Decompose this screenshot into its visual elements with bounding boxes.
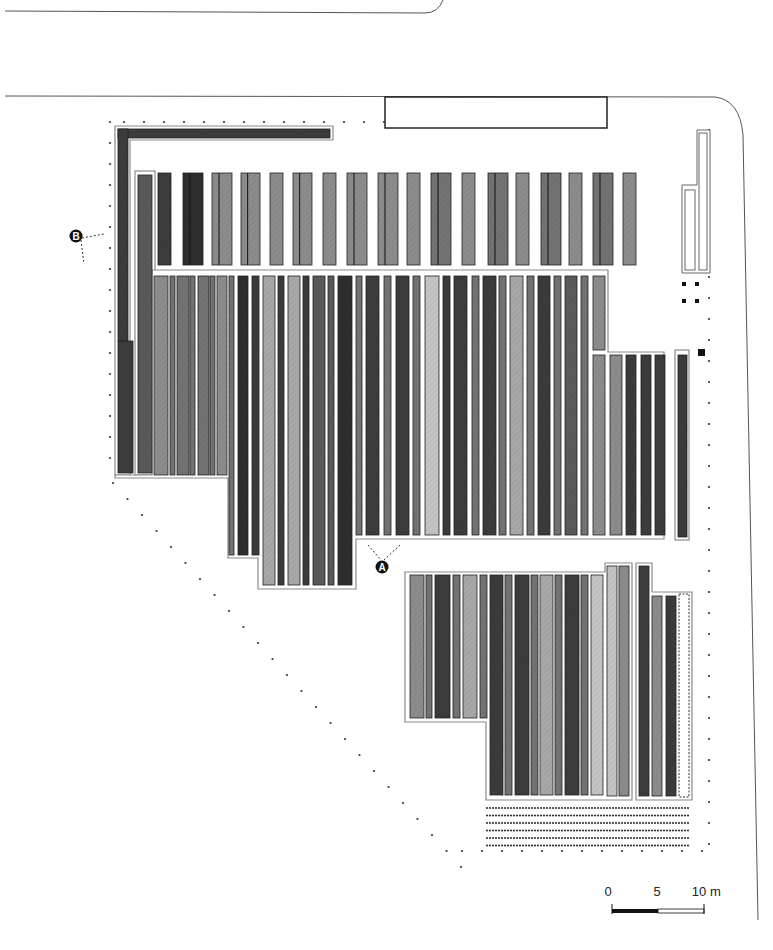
marker-b[interactable]: B (70, 230, 105, 265)
strip (241, 173, 260, 265)
strip (488, 173, 508, 265)
strip (313, 276, 325, 585)
strip (453, 575, 460, 718)
strip (593, 355, 605, 535)
strip (425, 276, 439, 535)
scale-label-5: 5 (653, 884, 660, 899)
strip (490, 575, 503, 795)
strip (581, 276, 588, 535)
strip (338, 276, 352, 585)
strip (396, 276, 409, 535)
strip (443, 276, 450, 535)
strip (170, 276, 175, 475)
marker-a[interactable]: A (368, 545, 400, 574)
strip (510, 276, 523, 535)
strip (619, 566, 629, 796)
strip (328, 276, 334, 585)
strip (610, 355, 622, 535)
strip (177, 276, 189, 475)
strip (462, 173, 475, 265)
strip (483, 276, 496, 535)
site-plan: B A 0 5 10 m (0, 0, 773, 950)
strip (229, 276, 234, 555)
strip (347, 173, 367, 265)
strip (463, 575, 477, 718)
marker-b-label: B (72, 231, 79, 242)
scale-bar: 0 5 10 m (604, 884, 720, 914)
strip (217, 276, 227, 475)
strip (678, 355, 687, 537)
strip (666, 596, 676, 796)
strip (323, 173, 336, 265)
strip (270, 173, 283, 265)
strip (639, 566, 649, 796)
strip (581, 575, 588, 795)
strip (198, 276, 209, 475)
strip (293, 173, 312, 265)
strip (138, 175, 152, 473)
strip (154, 276, 168, 475)
strip (118, 129, 128, 341)
strip (538, 276, 550, 535)
strip (652, 596, 662, 796)
strip (499, 276, 506, 535)
strip (593, 276, 605, 350)
strip (540, 575, 553, 795)
road-edge-top (5, 0, 443, 13)
strip (565, 276, 577, 535)
strip (303, 276, 309, 585)
strip (288, 276, 300, 585)
strip (565, 575, 579, 795)
strip (426, 575, 432, 718)
strip (278, 276, 284, 585)
strip (554, 276, 561, 535)
strip (591, 575, 603, 795)
strip (413, 276, 420, 535)
strip (569, 173, 582, 265)
strip (252, 276, 259, 555)
strip (454, 276, 467, 535)
strip (118, 129, 330, 138)
strip (183, 173, 203, 265)
strip (555, 575, 562, 795)
scale-label-10: 10 (692, 884, 706, 899)
scale-unit: m (710, 884, 721, 899)
strip (263, 276, 275, 585)
strip (515, 575, 529, 795)
strip (210, 276, 215, 475)
strip (378, 173, 398, 265)
strip (505, 575, 512, 795)
scale-label-0: 0 (604, 884, 611, 899)
strip (516, 173, 529, 265)
strip (190, 276, 195, 475)
strip (118, 341, 133, 473)
strip (410, 575, 424, 718)
right-structure (682, 130, 710, 356)
strip (212, 173, 232, 265)
entrance-building (385, 97, 607, 128)
strip (407, 173, 420, 265)
strip (480, 575, 487, 718)
strip (607, 566, 617, 796)
planting-strips (118, 129, 689, 797)
strip (527, 276, 534, 535)
strip (431, 173, 451, 265)
strip (435, 575, 450, 718)
strip (593, 173, 613, 265)
strip (626, 355, 636, 535)
strip (531, 575, 538, 795)
strip (384, 276, 391, 535)
marker-a-label: A (378, 562, 385, 573)
strip (366, 276, 379, 535)
strip (641, 355, 651, 535)
strip (541, 173, 561, 265)
strip (472, 276, 479, 535)
strip (238, 276, 248, 555)
strip (623, 173, 636, 265)
strip (356, 276, 362, 535)
strip (655, 355, 665, 535)
strip (158, 173, 171, 265)
